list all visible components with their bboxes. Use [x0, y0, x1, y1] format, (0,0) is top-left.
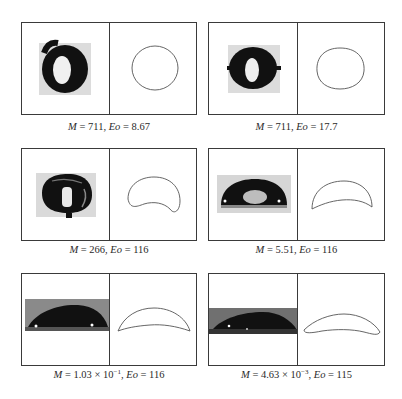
panel-f: M = 4.63 × 10−3, Eo = 115	[208, 273, 385, 388]
experimental-photo	[209, 149, 298, 240]
simulated-contour	[298, 149, 386, 240]
simulated-contour	[298, 274, 386, 365]
panel-b-frame	[208, 22, 385, 115]
panel-d-caption: M = 5.51, Eo = 116	[208, 244, 385, 255]
panel-c-caption: M = 266, Eo = 116	[21, 244, 197, 255]
panel-e: M = 1.03 × 10−1, Eo = 116	[21, 273, 197, 388]
simulated-contour	[110, 23, 198, 114]
panel-c: M = 266, Eo = 116	[21, 148, 197, 263]
panel-a-frame	[21, 22, 197, 115]
panel-a-caption: M = 711, Eo = 8.67	[21, 121, 197, 132]
panel-c-frame	[21, 148, 197, 241]
experimental-photo	[22, 23, 110, 114]
simulated-contour	[110, 149, 198, 240]
experimental-photo	[22, 274, 110, 365]
simulated-contour	[298, 23, 386, 114]
panel-a: M = 711, Eo = 8.67	[21, 22, 197, 137]
experimental-photo	[209, 274, 298, 365]
panel-b-caption: M = 711, Eo = 17.7	[208, 121, 385, 132]
panel-d: M = 5.51, Eo = 116	[208, 148, 385, 263]
experimental-photo	[22, 149, 110, 240]
panel-f-frame	[208, 273, 385, 366]
experimental-photo	[209, 23, 298, 114]
panel-e-frame	[21, 273, 197, 366]
simulated-contour	[110, 274, 198, 365]
panel-f-caption: M = 4.63 × 10−3, Eo = 115	[208, 368, 385, 380]
panel-b: M = 711, Eo = 17.7	[208, 22, 385, 137]
panel-e-caption: M = 1.03 × 10−1, Eo = 116	[21, 368, 197, 380]
panel-d-frame	[208, 148, 385, 241]
